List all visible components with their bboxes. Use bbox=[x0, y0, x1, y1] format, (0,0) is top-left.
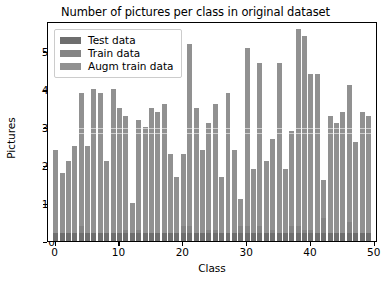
bar-segment-augm-train bbox=[213, 104, 218, 241]
bar-group bbox=[315, 22, 320, 241]
chart-title: Number of pictures per class in original… bbox=[0, 5, 391, 19]
bar-group bbox=[308, 22, 313, 241]
x-tick-mark bbox=[374, 242, 375, 246]
bar-segment-augm-train bbox=[91, 89, 96, 241]
bar-group bbox=[296, 22, 301, 241]
bar-group bbox=[347, 22, 352, 241]
bar-segment-augm-train bbox=[245, 48, 250, 241]
bar-segment-augm-train bbox=[123, 116, 128, 241]
bar-segment-test bbox=[194, 233, 199, 241]
bar-segment-augm-train bbox=[206, 123, 211, 241]
bar-segment-augm-train bbox=[315, 74, 320, 241]
bar-group bbox=[277, 22, 282, 241]
bar-segment-augm-train bbox=[104, 161, 109, 241]
bar-segment-test bbox=[289, 233, 294, 241]
bar-segment-augm-train bbox=[302, 36, 307, 241]
bar-group bbox=[200, 22, 205, 241]
bar-segment-augm-train bbox=[366, 116, 371, 241]
x-tick-mark bbox=[118, 242, 119, 246]
x-tick-label: 40 bbox=[295, 246, 325, 258]
x-tick-label: 10 bbox=[103, 246, 133, 258]
bar-segment-augm-train bbox=[66, 161, 71, 241]
bar-segment-test bbox=[187, 233, 192, 241]
bar-segment-test bbox=[360, 233, 365, 241]
x-tick-mark bbox=[55, 242, 56, 246]
bar-segment-test bbox=[60, 233, 65, 241]
bar-segment-augm-train bbox=[79, 93, 84, 241]
bar-segment-augm-train bbox=[296, 29, 301, 241]
bar-segment-augm-train bbox=[219, 177, 224, 241]
bar-segment-augm-train bbox=[98, 93, 103, 241]
bar-segment-augm-train bbox=[53, 150, 58, 241]
bar-group bbox=[264, 22, 269, 241]
bar-group bbox=[213, 22, 218, 241]
bar-group bbox=[360, 22, 365, 241]
chart-legend: Test dataTrain dataAugm train data bbox=[54, 29, 182, 78]
bar-segment-test bbox=[296, 233, 301, 241]
bar-segment-test bbox=[200, 233, 205, 241]
bar-group bbox=[251, 22, 256, 241]
bar-segment-augm-train bbox=[328, 116, 333, 241]
bar-segment-test bbox=[270, 233, 275, 241]
bar-segment-test bbox=[79, 233, 84, 241]
x-tick-mark bbox=[182, 242, 183, 246]
bar-group bbox=[206, 22, 211, 241]
bar-segment-test bbox=[143, 233, 148, 241]
bar-group bbox=[219, 22, 224, 241]
bar-segment-test bbox=[91, 233, 96, 241]
legend-label: Test data bbox=[88, 34, 136, 47]
bar-segment-test bbox=[353, 233, 358, 241]
bar-segment-test bbox=[72, 233, 77, 241]
x-tick-label: 50 bbox=[359, 246, 389, 258]
bar-segment-augm-train bbox=[60, 173, 65, 241]
bar-group bbox=[232, 22, 237, 241]
bar-segment-test bbox=[302, 233, 307, 241]
bar-segment-test bbox=[117, 233, 122, 241]
legend-item: Augm train data bbox=[60, 60, 174, 73]
bar-segment-augm-train bbox=[72, 146, 77, 241]
bar-group bbox=[257, 22, 262, 241]
legend-item: Train data bbox=[60, 47, 174, 60]
bar-segment-test bbox=[245, 233, 250, 241]
bar-group bbox=[340, 22, 345, 241]
x-tick-label: 20 bbox=[167, 246, 197, 258]
bar-segment-augm-train bbox=[187, 44, 192, 241]
bar-group bbox=[187, 22, 192, 241]
bar-segment-augm-train bbox=[270, 139, 275, 241]
bar-segment-test bbox=[53, 233, 58, 241]
bar-segment-test bbox=[206, 233, 211, 241]
bar-group bbox=[270, 22, 275, 241]
bar-segment-test bbox=[155, 233, 160, 241]
y-tick-mark bbox=[43, 242, 47, 243]
bar-segment-augm-train bbox=[155, 112, 160, 241]
legend-swatch bbox=[60, 50, 81, 57]
bar-segment-test bbox=[104, 233, 109, 241]
bar-segment-augm-train bbox=[340, 112, 345, 241]
bar-segment-augm-train bbox=[360, 112, 365, 241]
bar-segment-test bbox=[264, 233, 269, 241]
bar-segment-test bbox=[111, 233, 116, 241]
bar-segment-test bbox=[232, 233, 237, 241]
bar-segment-augm-train bbox=[257, 63, 262, 241]
bar-segment-test bbox=[251, 233, 256, 241]
bar-segment-test bbox=[162, 233, 167, 241]
bar-segment-test bbox=[321, 233, 326, 241]
bar-segment-test bbox=[149, 233, 154, 241]
bar-segment-test bbox=[366, 233, 371, 241]
bar-segment-augm-train bbox=[347, 85, 352, 241]
bar-group bbox=[353, 22, 358, 241]
y-axis-label: Pictures bbox=[5, 98, 17, 178]
bar-segment-test bbox=[315, 233, 320, 241]
bar-segment-augm-train bbox=[168, 154, 173, 241]
chart-figure: Number of pictures per class in original… bbox=[0, 0, 391, 292]
bar-group bbox=[366, 22, 371, 241]
bar-group bbox=[289, 22, 294, 241]
bar-segment-augm-train bbox=[143, 127, 148, 241]
bar-segment-test bbox=[328, 233, 333, 241]
bar-segment-augm-train bbox=[251, 169, 256, 241]
legend-label: Augm train data bbox=[88, 60, 174, 73]
bar-segment-test bbox=[98, 233, 103, 241]
bar-segment-test bbox=[257, 233, 262, 241]
legend-label: Train data bbox=[88, 47, 140, 60]
bar-segment-test bbox=[340, 233, 345, 241]
